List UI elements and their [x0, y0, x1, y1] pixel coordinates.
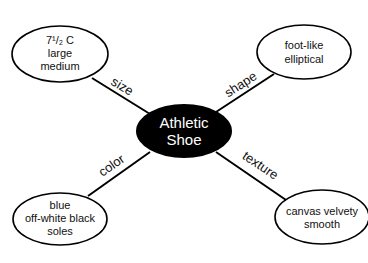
center-node: Athletic Shoe: [136, 104, 232, 158]
node-texture-line-2: smooth: [304, 218, 340, 230]
concept-map: size shape color texture Athletic Shoe 7…: [0, 0, 368, 263]
node-color-line-2: off-white black: [25, 212, 96, 224]
node-color-line-1: blue: [50, 199, 71, 211]
node-shape-line-1: foot-like: [285, 39, 324, 51]
edge-label-texture: texture: [240, 148, 281, 183]
node-size-line-3: medium: [40, 60, 79, 72]
node-texture: canvas velvety smooth: [275, 190, 368, 244]
node-shape: foot-like elliptical: [257, 25, 351, 79]
node-size-line-1: 7¹/₂ C: [46, 34, 74, 46]
center-line-2: Shoe: [166, 131, 201, 148]
edge-label-color: color: [96, 151, 128, 180]
node-color-line-3: soles: [47, 225, 73, 237]
center-line-1: Athletic: [159, 114, 209, 131]
node-texture-line-1: canvas velvety: [286, 205, 359, 217]
node-size-line-2: large: [48, 47, 72, 59]
node-size: 7¹/₂ C large medium: [12, 26, 108, 82]
node-shape-line-2: elliptical: [284, 53, 323, 65]
node-color: blue off-white black soles: [13, 193, 107, 245]
edge-label-size: size: [109, 74, 137, 99]
